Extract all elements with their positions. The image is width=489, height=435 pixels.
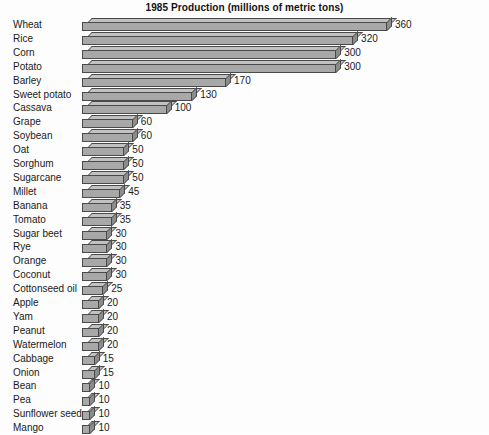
chart-plot-area: Wheat360Rice320Corn300Potato300Barley170… <box>0 18 489 433</box>
bar-front-face <box>82 133 133 142</box>
bar-value-label: 30 <box>115 254 126 268</box>
bar-value-label: 50 <box>132 157 143 171</box>
bar-front-face <box>82 397 90 406</box>
category-label: Orange <box>13 254 46 268</box>
bar <box>82 101 172 115</box>
chart-row: Sugar beet30 <box>0 227 489 241</box>
bar-value-label: 15 <box>103 352 114 366</box>
bar <box>82 254 112 268</box>
bar-side-face <box>103 281 108 295</box>
bar-front-face <box>82 244 107 253</box>
bar <box>82 143 129 157</box>
bar-side-face <box>90 420 95 434</box>
bar-front-face <box>82 314 99 323</box>
bar <box>82 18 392 32</box>
category-label: Banana <box>13 199 47 213</box>
category-label: Sugar beet <box>13 227 62 241</box>
category-label: Sunflower seed <box>13 407 82 421</box>
bar-front-face <box>82 342 99 351</box>
chart-row: Sugarcane50 <box>0 171 489 185</box>
bar <box>82 338 104 352</box>
bar-side-face <box>124 156 129 170</box>
bar-value-label: 20 <box>107 296 118 310</box>
bar-value-label: 50 <box>132 171 143 185</box>
bar <box>82 310 104 324</box>
bar-value-label: 320 <box>361 32 378 46</box>
bar <box>82 352 100 366</box>
bar-front-face <box>82 78 226 87</box>
chart-row: Grape60 <box>0 115 489 129</box>
chart-row: Soybean60 <box>0 129 489 143</box>
chart-row: Oat50 <box>0 143 489 157</box>
bar-value-label: 300 <box>344 60 361 74</box>
bar <box>82 32 358 46</box>
bar-front-face <box>82 272 107 281</box>
category-label: Apple <box>13 296 39 310</box>
chart-row: Mango10 <box>0 421 489 435</box>
bar-side-face <box>90 406 95 420</box>
bar-front-face <box>82 175 124 184</box>
bar <box>82 185 125 199</box>
category-label: Potato <box>13 60 42 74</box>
bar-value-label: 60 <box>141 115 152 129</box>
bar <box>82 366 100 380</box>
bar-value-label: 360 <box>395 18 412 32</box>
bar-value-label: 30 <box>115 268 126 282</box>
bar-value-label: 130 <box>200 88 217 102</box>
bar-front-face <box>82 64 336 73</box>
chart-row: Corn300 <box>0 46 489 60</box>
bar <box>82 60 341 74</box>
category-label: Coconut <box>13 268 50 282</box>
bar-value-label: 30 <box>115 240 126 254</box>
category-label: Bean <box>13 379 36 393</box>
chart-title: 1985 Production (millions of metric tons… <box>0 2 489 13</box>
chart-row: Bean10 <box>0 379 489 393</box>
chart-row: Orange30 <box>0 254 489 268</box>
category-label: Sorghum <box>13 157 54 171</box>
bar-value-label: 35 <box>120 199 131 213</box>
category-label: Sugarcane <box>13 171 61 185</box>
bar-front-face <box>82 92 192 101</box>
chart-row: Barley170 <box>0 74 489 88</box>
category-label: Cassava <box>13 101 52 115</box>
bar <box>82 379 95 393</box>
category-label: Soybean <box>13 129 52 143</box>
bar-front-face <box>82 50 336 59</box>
bar-front-face <box>82 119 133 128</box>
chart-row: Cottonseed oil25 <box>0 282 489 296</box>
bar-value-label: 20 <box>107 338 118 352</box>
bar <box>82 282 108 296</box>
bar-side-face <box>90 392 95 406</box>
bar-value-label: 10 <box>98 421 109 435</box>
bar-front-face <box>82 300 99 309</box>
bar-value-label: 10 <box>98 407 109 421</box>
bar-front-face <box>82 203 112 212</box>
bar-value-label: 35 <box>120 213 131 227</box>
category-label: Sweet potato <box>13 88 71 102</box>
bar <box>82 74 231 88</box>
chart-row: Onion15 <box>0 366 489 380</box>
chart-row: Rye30 <box>0 240 489 254</box>
bar-value-label: 10 <box>98 393 109 407</box>
bar <box>82 157 129 171</box>
chart-row: Millet45 <box>0 185 489 199</box>
category-label: Cottonseed oil <box>13 282 77 296</box>
bar-front-face <box>82 22 387 31</box>
bar-front-face <box>82 161 124 170</box>
bar-front-face <box>82 328 99 337</box>
chart-row: Peanut20 <box>0 324 489 338</box>
bar-front-face <box>82 370 95 379</box>
chart-row: Wheat360 <box>0 18 489 32</box>
bar-front-face <box>82 36 353 45</box>
bar-value-label: 300 <box>344 46 361 60</box>
chart-row: Apple20 <box>0 296 489 310</box>
bar-front-face <box>82 286 103 295</box>
category-label: Wheat <box>13 18 42 32</box>
bar <box>82 407 95 421</box>
bar-value-label: 170 <box>234 74 251 88</box>
bar-value-label: 60 <box>141 129 152 143</box>
chart-row: Potato300 <box>0 60 489 74</box>
bar-front-face <box>82 383 90 392</box>
bar-front-face <box>82 411 90 420</box>
